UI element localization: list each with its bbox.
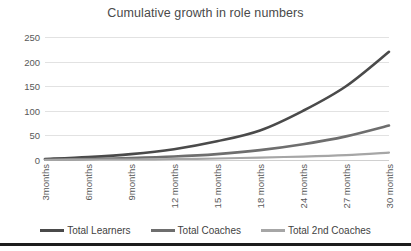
series-lines <box>45 37 389 160</box>
legend-item-0[interactable]: Total Learners <box>40 225 130 236</box>
series-line-0 <box>45 52 389 159</box>
chart-container: Cumulative growth in role numbers 050100… <box>0 0 411 251</box>
x-tick-label-1: 6months <box>83 164 94 200</box>
plot-area <box>45 37 389 160</box>
x-tick-label-3: 12 months <box>169 164 180 208</box>
x-tick-label-5: 18 months <box>255 164 266 208</box>
legend-item-1[interactable]: Total Coaches <box>151 225 241 236</box>
legend-item-2[interactable]: Total 2nd Coaches <box>261 225 371 236</box>
x-tick-5: 18 months <box>239 164 282 216</box>
y-tick-label-100: 100 <box>2 105 40 116</box>
legend-swatch-icon-1 <box>151 229 175 232</box>
x-axis-labels: 3months6months9months12 months15 months1… <box>45 164 389 216</box>
x-tick-label-4: 15 months <box>212 164 223 208</box>
legend-label-1: Total Coaches <box>178 225 241 236</box>
x-tick-8: 30 months <box>368 164 411 216</box>
x-tick-label-6: 24 months <box>298 164 309 208</box>
y-tick-label-50: 50 <box>2 130 40 141</box>
x-tick-0: 3months <box>24 164 67 216</box>
x-tick-3: 12 months <box>153 164 196 216</box>
chart-legend: Total LearnersTotal CoachesTotal 2nd Coa… <box>0 225 411 236</box>
legend-label-2: Total 2nd Coaches <box>288 225 371 236</box>
x-tick-7: 27 months <box>325 164 368 216</box>
legend-swatch-icon-2 <box>261 229 285 232</box>
legend-label-0: Total Learners <box>67 225 130 236</box>
x-tick-2: 9months <box>110 164 153 216</box>
y-tick-label-250: 250 <box>2 32 40 43</box>
legend-swatch-icon-0 <box>40 229 64 232</box>
y-tick-label-200: 200 <box>2 56 40 67</box>
x-tick-label-8: 30 months <box>384 164 395 208</box>
x-tick-label-7: 27 months <box>341 164 352 208</box>
x-tick-4: 15 months <box>196 164 239 216</box>
x-tick-label-2: 9months <box>126 164 137 200</box>
x-tick-1: 6months <box>67 164 110 216</box>
x-tick-label-0: 3months <box>40 164 51 200</box>
x-tick-6: 24 months <box>282 164 325 216</box>
bottom-divider <box>0 243 411 246</box>
chart-title: Cumulative growth in role numbers <box>0 6 411 20</box>
y-tick-label-150: 150 <box>2 81 40 92</box>
